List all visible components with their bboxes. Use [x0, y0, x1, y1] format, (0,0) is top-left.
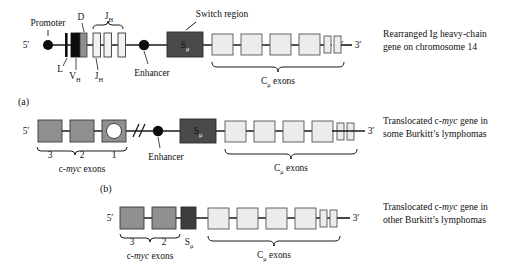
three-prime-label-row3: 3′: [353, 213, 360, 223]
cmu-exons-brace-row1: [212, 62, 344, 72]
caption-b-post: gene in: [458, 201, 488, 212]
enhancer-leader-line-row2: [158, 137, 160, 148]
cmu-exon-box-5-row3: [320, 210, 327, 227]
promoter-label: Promoter: [31, 18, 67, 28]
cmyc-exon1-noncoding-circle: [107, 124, 122, 139]
cmu-exons-label-row3: Cμ exons: [257, 250, 291, 262]
cmu-exon-box-2-row3: [237, 208, 258, 229]
enhancer-leader-line-row1: [144, 51, 148, 64]
five-prime-label-row1: 5′: [23, 40, 30, 50]
smu-label-row3: Sμ: [185, 237, 194, 249]
cmu-exon-box-3-row3: [266, 208, 287, 229]
cmu-exon-box-4-row3: [295, 208, 316, 229]
caption-a-post: gene in: [458, 115, 488, 126]
three-prime-label-row2: 3′: [368, 126, 375, 136]
d-segment-box: [80, 33, 87, 57]
cmu-exons-brace-row3: [208, 236, 340, 246]
enhancer-label-row1: Enhancer: [134, 68, 170, 78]
vh-label: VH: [69, 71, 81, 83]
cmu-exon-box-3-row2: [283, 121, 304, 142]
row-germline-igh: 5′ 3′ JH D Promoter L VH JH: [23, 9, 362, 88]
panel-label-a: (a): [18, 96, 29, 107]
caption-panel-a-line2: some Burkitt’s lymphomas: [383, 128, 488, 141]
caption-a-italic: myc: [442, 115, 457, 126]
cmu-exon-box-6-row1: [334, 36, 341, 53]
cmu-exons-label-row1: Cμ exons: [261, 76, 295, 88]
cmyc-exons-label-row3: c-myc exons: [127, 251, 174, 261]
caption-panel-a-line1: Translocated c-myc gene in: [383, 115, 488, 128]
enhancer-label-row2: Enhancer: [148, 152, 184, 162]
cmu-exons-label-row2: Cμ exons: [274, 163, 308, 175]
cmu-exon-box-5-row1: [324, 36, 331, 53]
leader-label-line: [63, 58, 67, 66]
vh-segment-box: [71, 33, 80, 57]
caption-row1: Rearranged Ig heavy-chain gene on chromo…: [383, 28, 487, 53]
panel-label-b: (b): [100, 183, 112, 194]
enhancer-dot-row1: [139, 40, 149, 50]
cmu-exon-box-4-row2: [312, 121, 333, 142]
cmu-exon-box-2-row2: [254, 121, 275, 142]
jh-segment-box-3: [118, 33, 126, 57]
caption-b-pre: Translocated c-: [383, 201, 442, 212]
caption-b-italic: myc: [442, 201, 457, 212]
switch-region-label: Switch region: [196, 9, 249, 19]
jh-top-label: JH: [105, 11, 114, 23]
cmyc-exon-box-2-row3: [152, 207, 176, 229]
cmu-exon-box-1-row1: [212, 34, 233, 55]
d-leader-line: [82, 23, 84, 32]
cmu-exon-box-4-row1: [299, 34, 320, 55]
leader-label: L: [57, 64, 63, 74]
jh-segment-box-1: [93, 33, 101, 57]
jh-segment-box-2: [104, 33, 112, 57]
cmyc-exon-box-2-row2: [70, 120, 94, 142]
leader-segment-box: [65, 33, 68, 57]
caption-row1-line1: Rearranged Ig heavy-chain: [383, 28, 487, 41]
enhancer-dot-row2: [153, 126, 163, 136]
caption-row1-line2: gene on chromosome 14: [383, 41, 487, 54]
switch-region-box-row3: [181, 207, 196, 229]
caption-panel-b: Translocated c-myc gene in other Burkitt…: [383, 201, 488, 226]
jh-bottom-label-line: [96, 58, 98, 70]
jh-bottom-label: JH: [95, 71, 104, 83]
cmu-exon-box-2-row1: [241, 34, 262, 55]
switch-region-leader-line: [186, 22, 196, 30]
caption-panel-b-line1: Translocated c-myc gene in: [383, 201, 488, 214]
row-panel-a: 5′ Enhancer Sμ 3′ 3 2 1 c-myc exons: [23, 119, 375, 175]
cmu-exon-box-3-row1: [270, 34, 291, 55]
figure-root: 5′ 3′ JH D Promoter L VH JH: [0, 0, 507, 266]
five-prime-label-row3: 5′: [107, 213, 114, 223]
cmu-exons-brace-row2: [225, 149, 357, 159]
caption-panel-b-line2: other Burkitt’s lymphomas: [383, 214, 488, 227]
caption-a-pre: Translocated c-: [383, 115, 442, 126]
cmyc-exon-box-3-row3: [120, 207, 144, 229]
five-prime-label-row2: 5′: [23, 126, 30, 136]
cmu-exon-box-1-row2: [225, 121, 246, 142]
cmyc-exon-box-3-row2: [38, 120, 62, 142]
caption-panel-a: Translocated c-myc gene in some Burkitt’…: [383, 115, 488, 140]
row-panel-b: 5′ 3′ 3 2 Sμ c-myc exons Cμ exons: [107, 207, 360, 262]
three-prime-label-row1b: 3′: [355, 40, 362, 50]
cmu-exon-box-6-row3: [330, 210, 337, 227]
cmu-exon-box-1-row3: [208, 208, 229, 229]
promoter-dot-row1: [43, 40, 53, 50]
cmyc-exons-label-row2: c-myc exons: [59, 164, 106, 174]
d-label: D: [78, 12, 85, 22]
